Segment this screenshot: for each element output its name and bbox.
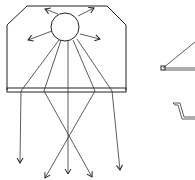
channel-profile [173, 103, 195, 119]
lamp-circle [51, 13, 79, 41]
diffuser-plate [7, 88, 126, 92]
bracket-profile [161, 42, 195, 70]
direct-rays [20, 39, 120, 178]
luminaire-diagram [0, 0, 195, 180]
housing-outline [7, 6, 126, 90]
